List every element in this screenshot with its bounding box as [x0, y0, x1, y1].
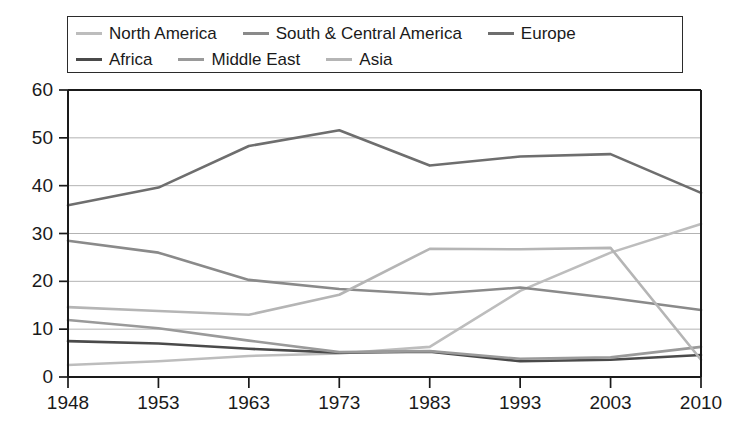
series-line-europe: [68, 130, 701, 205]
y-tick-label: 40: [32, 175, 53, 196]
legend-label-middle-east: Middle East: [211, 51, 300, 68]
y-tick-label: 0: [42, 366, 53, 387]
x-tick-label: 1993: [499, 392, 541, 413]
x-tick-label: 1973: [318, 392, 360, 413]
legend-item-north-america[interactable]: North America: [76, 25, 217, 42]
x-tick-label: 1983: [409, 392, 451, 413]
legend-item-middle-east[interactable]: Middle East: [178, 51, 300, 68]
x-tick-label: 1953: [137, 392, 179, 413]
legend-swatch-north-america: [76, 32, 102, 35]
legend-swatch-europe: [488, 32, 514, 35]
legend-item-europe[interactable]: Europe: [488, 25, 576, 42]
legend-swatch-asia: [326, 58, 352, 61]
y-tick-label: 10: [32, 318, 53, 339]
legend-row-2: Africa Middle East Asia: [76, 46, 674, 72]
series-lines: [68, 130, 701, 365]
legend-swatch-africa: [76, 58, 102, 61]
legend-label-europe: Europe: [521, 25, 576, 42]
legend-swatch-middle-east: [178, 58, 204, 61]
legend-label-africa: Africa: [109, 51, 152, 68]
legend-row-1: North America South & Central America Eu…: [76, 20, 674, 46]
y-tick-label: 60: [32, 79, 53, 100]
legend-item-asia[interactable]: Asia: [326, 51, 392, 68]
legend-swatch-south-central-america: [243, 32, 269, 35]
y-tick-label: 50: [32, 127, 53, 148]
y-tick-labels: 0102030405060: [32, 79, 53, 387]
legend-item-africa[interactable]: Africa: [76, 51, 152, 68]
grid-lines: [68, 90, 701, 377]
legend-label-asia: Asia: [359, 51, 392, 68]
y-tick-label: 30: [32, 223, 53, 244]
series-line-south-central-america: [68, 241, 701, 310]
plot-area: 0102030405060 19481953196319731983199320…: [0, 78, 732, 435]
x-tick-label: 2010: [680, 392, 722, 413]
legend-label-south-central-america: South & Central America: [276, 25, 462, 42]
legend-item-south-central-america[interactable]: South & Central America: [243, 25, 462, 42]
line-chart-figure: North America South & Central America Eu…: [0, 0, 732, 435]
x-tick-label: 1963: [228, 392, 270, 413]
x-tick-label: 2003: [589, 392, 631, 413]
legend-label-north-america: North America: [109, 25, 217, 42]
x-tick-labels: 19481953196319731983199320032010: [47, 392, 722, 413]
chart-legend: North America South & Central America Eu…: [67, 16, 683, 73]
y-tick-label: 20: [32, 270, 53, 291]
x-tick-label: 1948: [47, 392, 89, 413]
chart-svg: 0102030405060 19481953196319731983199320…: [0, 78, 732, 435]
